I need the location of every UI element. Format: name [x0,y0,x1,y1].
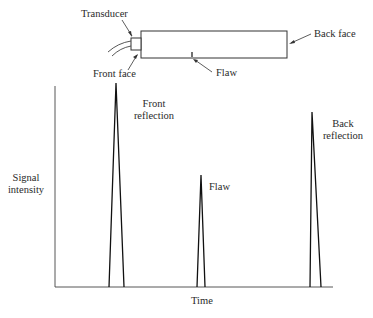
peak-label-line: reflection [316,130,370,142]
peak-label-line: reflection [124,110,184,122]
front-face-label: Front face [93,68,136,80]
transducer-icon [131,38,141,50]
y-axis-label: Signal intensity [0,172,52,196]
chart [55,83,333,287]
specimen [108,20,311,72]
x-axis-label: Time [191,295,213,307]
peak-label-front-reflection: Front reflection [124,98,184,122]
y-axis-label-line: Signal [0,172,52,184]
peak-label-flaw: Flaw [209,181,230,193]
peak-label-back-reflection: Back reflection [316,118,370,142]
specimen-block [141,31,287,58]
peak-label-line: Front [124,98,184,110]
flaw-arrow-icon [195,60,212,72]
peak-front-reflection [109,83,124,287]
transducer-arrowhead-icon [128,31,132,37]
flaw-label: Flaw [216,67,237,79]
y-axis-label-line: intensity [0,184,52,196]
transducer-cable-icon-2 [112,46,131,56]
peak-label-line: Back [316,118,370,130]
back-face-label: Back face [314,28,356,40]
back-face-arrowhead-icon [289,40,295,44]
flaw-arrowhead-icon [193,59,198,63]
ultrasonic-diagram [0,0,373,318]
transducer-label: Transducer [81,8,128,20]
peak-flaw [197,175,205,287]
front-face-arrowhead-icon [133,54,138,59]
